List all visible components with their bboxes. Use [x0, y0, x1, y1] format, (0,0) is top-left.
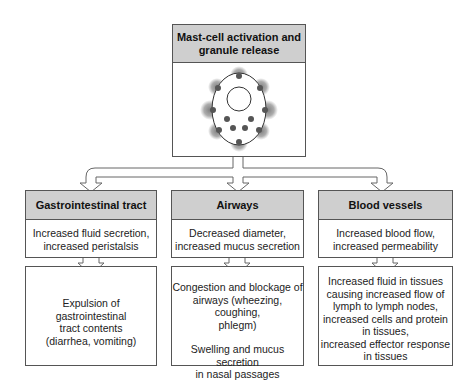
gi-tract-box: Gastrointestinal tract Increased fluid s…	[25, 190, 157, 258]
blood-vessels-box: Blood vessels Increased blood flow, incr…	[318, 190, 453, 258]
airways-effect: Decreased diameter, increased mucus secr…	[172, 227, 303, 252]
blood-vessels-outcome: Increased fluid in tissues causing incre…	[319, 275, 452, 363]
mast-cell-box: Mast-cell activation and granule release	[172, 24, 306, 157]
blood-vessels-effect: Increased blood flow, increased permeabi…	[319, 227, 452, 252]
blood-vessels-header: Blood vessels	[319, 191, 452, 220]
airways-outcome: Congestion and blockage of airways (whee…	[172, 281, 303, 381]
gi-tract-outcome: Expulsion of gastrointestinal tract cont…	[26, 297, 156, 347]
gi-tract-header: Gastrointestinal tract	[26, 191, 156, 220]
mast-cell-title-line2: granule release	[177, 44, 301, 57]
gi-tract-effect: Increased fluid secretion, increased per…	[26, 227, 156, 252]
airways-header: Airways	[172, 191, 303, 220]
blood-vessels-outcome-box: Increased fluid in tissues causing incre…	[318, 266, 453, 366]
airways-outcome-box: Congestion and blockage of airways (whee…	[171, 266, 304, 366]
mast-cell-icon	[173, 63, 305, 155]
mast-cell-title-line1: Mast-cell activation and	[177, 31, 301, 44]
airways-box: Airways Decreased diameter, increased mu…	[171, 190, 304, 258]
gi-tract-outcome-box: Expulsion of gastrointestinal tract cont…	[25, 266, 157, 366]
mast-cell-header: Mast-cell activation and granule release	[173, 25, 305, 63]
